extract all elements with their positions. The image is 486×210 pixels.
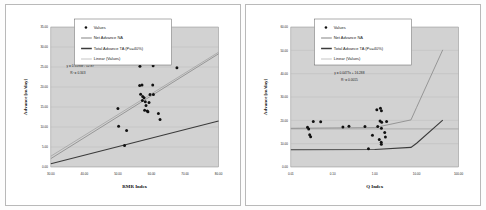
y-tick-label: 0.00 [282, 165, 288, 169]
x-tick-label: 0.10 [330, 172, 336, 176]
y-tick-label: 30.00 [40, 45, 48, 49]
legend-label-net-advance[interactable]: Net Advance NA [334, 35, 364, 40]
legend-box [74, 19, 172, 65]
x-tick-label: 60.00 [148, 172, 156, 176]
regression-r2: R² = 0.343 [70, 71, 85, 75]
y-tick-label: 25.00 [40, 65, 48, 69]
y-axis-rmr: 0.00 5.00 10.00 15.00 20.00 25.00 30.00 … [24, 25, 49, 169]
chart-panel-q: 0.00 10.00 20.00 30.00 40.00 50.00 60.00… [245, 4, 481, 206]
legend-label-values[interactable]: Values [94, 25, 106, 30]
chart-rmr: 0.00 5.00 10.00 15.00 20.00 25.00 30.00 … [6, 5, 240, 205]
y-axis-title: Advance [m/day] [264, 78, 269, 115]
x-tick-label: 100.00 [454, 172, 464, 176]
y-tick-label: 10.00 [40, 125, 48, 129]
x-axis-rmr: 30.00 40.00 50.00 60.00 70.00 80.00 RMR … [47, 172, 223, 189]
y-tick-label: 20.00 [40, 85, 48, 89]
x-tick-label: 80.00 [215, 172, 223, 176]
chart-q-svg: 0.00 10.00 20.00 30.00 40.00 50.00 60.00… [246, 5, 480, 205]
chart-q: 0.00 10.00 20.00 30.00 40.00 50.00 60.00… [246, 5, 480, 205]
x-tick-label: 30.00 [47, 172, 55, 176]
legend-marker-values [85, 26, 88, 29]
figure-sheet: 0.00 5.00 10.00 15.00 20.00 25.00 30.00 … [0, 0, 486, 210]
x-tick-label: 50.00 [114, 172, 122, 176]
y-tick-label: 10.00 [280, 142, 288, 146]
y-tick-label: 35.00 [40, 25, 48, 29]
legend-marker-values [325, 26, 328, 29]
legend-label-total-advance[interactable]: Total Advance TA (Pu=40%) [94, 46, 144, 51]
x-tick-label: 40.00 [81, 172, 89, 176]
y-tick-label: 50.00 [280, 49, 288, 53]
legend-label-values[interactable]: Values [334, 25, 346, 30]
x-axis-title: RMR Index [122, 184, 147, 189]
y-tick-label: 0.00 [42, 165, 48, 169]
legend-label-net-advance[interactable]: Net Advance NA [94, 35, 124, 40]
x-axis-title: Q Index [366, 184, 383, 189]
legend-q[interactable]: Values Net Advance NA Total Advance TA (… [314, 19, 412, 65]
x-tick-label: 70.00 [181, 172, 189, 176]
x-tick-label: 0.01 [288, 172, 294, 176]
legend-box [314, 19, 412, 65]
y-tick-label: 30.00 [280, 95, 288, 99]
x-tick-label: 1.00 [372, 172, 378, 176]
legend-label-linear[interactable]: Linear (Values) [334, 56, 361, 61]
y-tick-label: 40.00 [280, 72, 288, 76]
y-axis-title: Advance [m/day] [24, 78, 29, 115]
legend-rmr[interactable]: Values Net Advance NA Total Advance TA (… [74, 19, 172, 65]
regression-equation: y = 0.0477x + 16.288 [334, 71, 364, 75]
x-axis-q: 0.01 0.10 1.00 10.00 100.00 Q Index [288, 172, 464, 189]
legend-label-total-advance[interactable]: Total Advance TA (Pu=40%) [334, 46, 384, 51]
y-axis-q: 0.00 10.00 20.00 30.00 40.00 50.00 60.00… [264, 25, 289, 169]
x-tick-label: 10.00 [413, 172, 421, 176]
y-tick-label: 20.00 [280, 119, 288, 123]
y-tick-label: 15.00 [40, 105, 48, 109]
y-tick-label: 5.00 [42, 145, 48, 149]
chart-panel-rmr: 0.00 5.00 10.00 15.00 20.00 25.00 30.00 … [5, 4, 241, 206]
y-tick-label: 60.00 [280, 25, 288, 29]
legend-label-linear[interactable]: Linear (Values) [94, 56, 121, 61]
regression-r2: R² = 0.0015 [341, 78, 358, 82]
chart-rmr-svg: 0.00 5.00 10.00 15.00 20.00 25.00 30.00 … [6, 5, 240, 205]
